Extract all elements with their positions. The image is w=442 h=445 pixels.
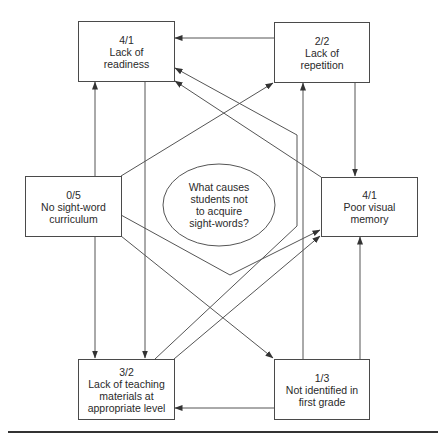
node-poor-visual-memory: 4/1 Poor visual memory <box>321 177 418 237</box>
center-question-line: students not <box>190 193 247 205</box>
node-score: 2/2 <box>315 35 330 47</box>
node-label-line: curriculum <box>49 213 97 225</box>
center-question-line: sight-words? <box>189 217 249 229</box>
node-lack-of-repetition: 2/2 Lack of repetition <box>274 22 370 83</box>
node-score: 4/1 <box>362 189 377 201</box>
node-lack-of-readiness: 4/1 Lack of readiness <box>78 21 175 82</box>
node-label-line: appropriate level <box>88 402 166 414</box>
node-lack-of-teaching-materials: 3/2 Lack of teaching materials at approp… <box>78 359 175 420</box>
node-label-line: Lack of teaching <box>88 378 164 390</box>
node-not-identified-first-grade: 1/3 Not identified in first grade <box>274 359 370 420</box>
node-no-sight-word-curriculum: 0/5 No sight-word curriculum <box>25 176 122 237</box>
node-score: 3/2 <box>119 366 134 378</box>
edge-curriculum-to-repetition <box>121 83 273 176</box>
center-question-line: What causes <box>189 181 250 193</box>
node-label-line: Lack of <box>305 47 339 59</box>
node-score: 0/5 <box>66 189 81 201</box>
bottom-divider <box>8 431 438 433</box>
node-score: 4/1 <box>119 34 134 46</box>
node-label-line: materials at <box>99 390 153 402</box>
node-score: 1/3 <box>315 372 330 384</box>
node-label-line: Not identified in <box>286 384 358 396</box>
node-label-line: readiness <box>104 58 150 70</box>
node-label-line: Lack of <box>110 46 144 58</box>
node-label-line: first grade <box>299 396 346 408</box>
edge-teaching-to-memory <box>174 236 320 359</box>
node-label-line: memory <box>351 213 389 225</box>
center-question: What causes students not to acquire sigh… <box>163 164 275 246</box>
node-label-line: repetition <box>300 59 343 71</box>
node-label-line: No sight-word <box>41 201 106 213</box>
center-question-line: to acquire <box>196 205 242 217</box>
node-label-line: Poor visual <box>344 201 396 213</box>
